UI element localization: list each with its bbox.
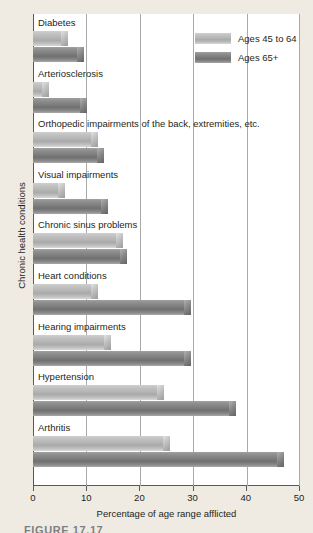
y-axis-title: Chronic health conditions [16, 141, 27, 331]
bar-ages-65-plus [33, 351, 190, 366]
bar-group: Hearing impairments [33, 320, 300, 371]
legend-item-ages-45-to-64: Ages 45 to 64 [195, 31, 307, 46]
bar-end-cap [58, 183, 65, 198]
x-tick [139, 486, 140, 491]
bar-ages-65-plus [33, 148, 103, 163]
legend-label-ages-65-plus: Ages 65+ [238, 52, 278, 63]
x-tick [33, 486, 34, 491]
x-axis-line [33, 485, 300, 486]
bar-end-cap [61, 31, 68, 46]
bar-end-cap [184, 351, 191, 366]
bar-end-cap [277, 452, 284, 467]
category-label: Visual impairments [38, 168, 118, 182]
category-label: Hearing impairments [38, 320, 126, 334]
legend-swatch-ages-45-to-64 [195, 33, 231, 44]
bar-end-cap [97, 148, 104, 163]
figure-chart: Chronic health conditions DiabetesArteri… [0, 0, 313, 533]
figure-caption: FIGURE 17.17 [24, 524, 103, 533]
x-tick [193, 486, 194, 491]
bar-end-cap [163, 436, 170, 451]
bar-end-cap [101, 199, 108, 214]
bar-end-cap [77, 47, 84, 62]
bar-end-cap [42, 82, 49, 97]
x-axis-title: Percentage of age range afflicted [33, 508, 300, 519]
category-label: Heart conditions [38, 269, 107, 283]
plot-area: DiabetesArteriosclerosisOrthopedic impai… [33, 14, 300, 486]
bar-end-cap [91, 132, 98, 147]
bar-ages-45-to-64 [33, 82, 48, 97]
legend-item-ages-65-plus: Ages 65+ [195, 50, 307, 65]
bar-end-cap [184, 300, 191, 315]
bar-end-cap [120, 249, 127, 264]
bar-group: Hypertension [33, 370, 300, 421]
bar-ages-65-plus [33, 98, 86, 113]
category-label: Hypertension [38, 370, 94, 384]
bar-ages-45-to-64 [33, 335, 110, 350]
x-tick [299, 486, 300, 491]
bar-ages-65-plus [33, 300, 190, 315]
category-label: Diabetes [38, 16, 76, 30]
bar-group: Heart conditions [33, 269, 300, 320]
bar-ages-65-plus [33, 47, 83, 62]
bar-ages-65-plus [33, 249, 126, 264]
x-tick-label: 0 [20, 492, 46, 503]
bar-ages-65-plus [33, 401, 235, 416]
bar-ages-45-to-64 [33, 31, 67, 46]
bar-ages-45-to-64 [33, 183, 64, 198]
bar-end-cap [229, 401, 236, 416]
bar-group: Orthopedic impairments of the back, extr… [33, 117, 300, 168]
bar-end-cap [157, 385, 164, 400]
bar-end-cap [80, 98, 87, 113]
bar-group: Chronic sinus problems [33, 218, 300, 269]
bar-ages-45-to-64 [33, 436, 169, 451]
legend-label-ages-45-to-64: Ages 45 to 64 [238, 33, 297, 44]
bar-ages-45-to-64 [33, 284, 97, 299]
x-tick-label: 20 [126, 492, 152, 503]
category-label: Orthopedic impairments of the back, extr… [38, 117, 260, 131]
category-label: Chronic sinus problems [38, 218, 137, 232]
x-tick-label: 30 [180, 492, 206, 503]
chart-legend: Ages 45 to 64 Ages 65+ [195, 31, 307, 69]
category-label: Arteriosclerosis [38, 67, 103, 81]
x-tick [246, 486, 247, 491]
bar-end-cap [91, 284, 98, 299]
legend-swatch-ages-65-plus [195, 52, 231, 63]
x-tick-label: 10 [73, 492, 99, 503]
bar-group: Visual impairments [33, 168, 300, 219]
bar-group: Arteriosclerosis [33, 67, 300, 118]
x-tick-label: 50 [286, 492, 312, 503]
x-tick [86, 486, 87, 491]
bar-ages-65-plus [33, 452, 283, 467]
x-tick-label: 40 [233, 492, 259, 503]
bar-ages-65-plus [33, 199, 107, 214]
bar-ages-45-to-64 [33, 233, 122, 248]
category-label: Arthritis [38, 421, 70, 435]
bar-group: Arthritis [33, 421, 300, 472]
bar-ages-45-to-64 [33, 132, 97, 147]
bar-end-cap [116, 233, 123, 248]
bar-end-cap [104, 335, 111, 350]
bar-ages-45-to-64 [33, 385, 163, 400]
